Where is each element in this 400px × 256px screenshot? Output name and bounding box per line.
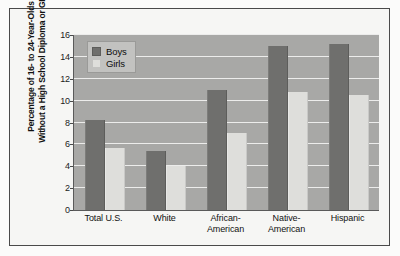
bar-boys-african-american	[207, 90, 227, 210]
legend: BoysGirls	[87, 41, 136, 73]
x-tick-label: Total U.S.	[73, 213, 134, 224]
y-axis-ticks: 0246810121416	[50, 35, 70, 210]
legend-swatch-girls-icon	[92, 59, 101, 68]
y-tick-mark	[70, 188, 73, 189]
legend-item-girls: Girls	[92, 57, 127, 69]
legend-label: Girls	[106, 58, 125, 69]
y-tick-mark	[70, 79, 73, 80]
bar-girls-african-american	[227, 133, 247, 210]
y-tick-mark	[70, 123, 73, 124]
chart-figure: Percentage of 16- to 24-Year-Olds Withou…	[0, 0, 400, 256]
y-axis-title-line-2: Without a High School Diploma or GED	[36, 0, 46, 143]
y-axis-title: Percentage of 16- to 24-Year-Olds Withou…	[26, 0, 47, 155]
x-tick-label-line: Total U.S.	[84, 213, 122, 223]
x-tick-label-line: White	[153, 213, 176, 223]
x-tick-label-line: American	[207, 224, 244, 234]
legend-swatch-boys-icon	[92, 47, 101, 56]
y-tick-mark	[70, 166, 73, 167]
x-axis-labels: Total U.S.WhiteAfrican-AmericanNative-Am…	[73, 213, 379, 243]
bar-boys-native-american	[268, 46, 288, 210]
x-tick-label: African-American	[195, 213, 256, 235]
bar-girls-total-u-s	[105, 148, 125, 210]
plot-area: BoysGirls	[73, 35, 379, 211]
x-tick-label-line: Hispanic	[331, 213, 365, 223]
y-tick-mark	[70, 35, 73, 36]
y-tick-mark	[70, 57, 73, 58]
legend-item-boys: Boys	[92, 45, 127, 57]
y-tick-label: 12	[60, 74, 70, 84]
bar-girls-hispanic	[349, 95, 369, 210]
y-tick-label: 10	[60, 96, 70, 106]
y-tick-mark	[70, 210, 73, 211]
gridline	[74, 34, 379, 35]
chart-frame: Percentage of 16- to 24-Year-Olds Withou…	[9, 8, 390, 246]
y-tick-mark	[70, 144, 73, 145]
bar-boys-total-u-s	[85, 120, 105, 210]
bar-boys-hispanic	[329, 44, 349, 210]
y-axis-title-line-1: Percentage of 16- to 24-Year-Olds	[26, 1, 36, 132]
x-tick-label: Hispanic	[317, 213, 378, 224]
y-tick-label: 16	[60, 30, 70, 40]
bar-girls-native-american	[288, 92, 308, 210]
x-tick-label: White	[134, 213, 195, 224]
x-tick-label: Native-American	[256, 213, 317, 235]
x-tick-label-line: African-	[210, 213, 240, 223]
x-tick-label-line: American	[268, 224, 305, 234]
y-tick-mark	[70, 101, 73, 102]
x-tick-label-line: Native-	[273, 213, 301, 223]
bar-girls-white	[166, 166, 186, 210]
legend-label: Boys	[106, 46, 127, 57]
y-tick-label: 14	[60, 52, 70, 62]
bar-boys-white	[146, 151, 166, 210]
